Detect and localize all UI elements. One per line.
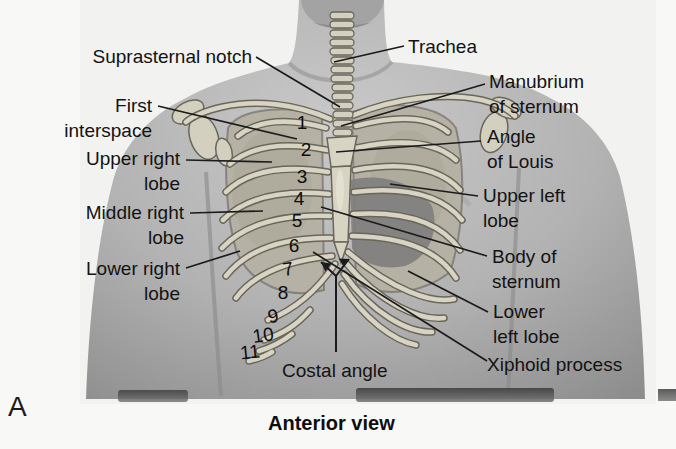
label-upper-left-lobe: Upper left lobe [483,183,565,233]
label-costal-angle: Costal angle [282,358,388,383]
rib-number-8: 8 [278,283,289,302]
rib-number-5: 5 [292,211,303,230]
label-lower-right-lobe: Lower right lobe [55,256,180,306]
rib-number-11: 11 [239,342,261,363]
label-suprasternal-notch: Suprasternal notch [52,44,252,69]
rib-number-4: 4 [294,189,305,208]
panel-letter: A [8,392,27,422]
label-body-of-sternum: Body of sternum [492,244,561,294]
label-manubrium-of-sternum: Manubrium of sternum [489,69,584,119]
rib-number-2: 2 [301,140,312,159]
rib-number-1: 1 [297,113,308,132]
label-middle-right-lobe: Middle right lobe [54,200,184,250]
label-angle-of-louis: Angle of Louis [487,124,554,174]
label-trachea: Trachea [408,34,477,59]
label-first-interspace: First interspace [32,93,152,143]
rib-number-3: 3 [297,167,308,186]
label-lower-left-lobe: Lower left lobe [493,299,560,349]
figure-caption: Anterior view [268,412,395,435]
anatomy-figure: Suprasternal notch First interspace Uppe… [0,0,676,449]
label-xiphoid-process: Xiphoid process [487,352,622,377]
rib-number-6: 6 [289,236,300,255]
label-upper-right-lobe: Upper right lobe [55,146,180,196]
